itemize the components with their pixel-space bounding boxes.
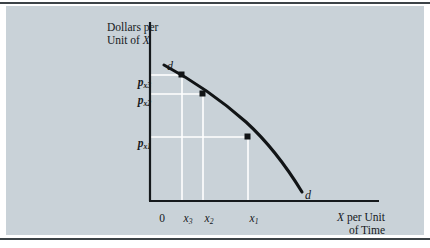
quantity-label-x3-base: x	[184, 212, 189, 224]
x-axis-title-line1-rest: per Unit	[344, 211, 385, 223]
bottom-rule	[0, 238, 430, 240]
quantity-label-x2-subscript: 2	[210, 217, 214, 226]
y-axis-title-line2-prefix: Unit of	[107, 34, 143, 46]
price-label-x3: px3	[117, 76, 151, 89]
curve-label-bottom: d	[305, 189, 311, 202]
demand-curve	[164, 65, 302, 192]
top-rule	[0, 2, 430, 4]
figure-root: Dollars perUnit of X X per Unitof Time p…	[0, 0, 430, 248]
quantity-label-x3: x3	[177, 212, 199, 225]
quantity-label-x2-base: x	[205, 212, 210, 224]
quantity-label-x2: x2	[198, 212, 220, 225]
y-axis-title-line1: Dollars per	[107, 21, 158, 33]
quantity-label-x1-base: x	[250, 212, 255, 224]
x-axis-title-line2: of Time	[349, 224, 385, 236]
y-axis-title-variable: X	[143, 34, 150, 46]
origin-label: 0	[151, 212, 173, 225]
quantity-label-x1-subscript: 1	[255, 217, 259, 226]
axis-lines	[149, 22, 379, 201]
demand-curve-plot	[6, 6, 424, 235]
price-label-x3-subscript: x3	[143, 81, 151, 90]
curve-label-top: d	[167, 60, 173, 73]
price-label-x1-subscript: x1	[143, 142, 151, 151]
x-axis-title: X per Unitof Time	[289, 211, 385, 237]
figure-panel: Dollars perUnit of X X per Unitof Time p…	[6, 6, 424, 235]
price-label-x2-subscript: x2	[143, 99, 151, 108]
quantity-label-x3-subscript: 3	[189, 217, 193, 226]
y-axis-title: Dollars perUnit of X	[107, 21, 158, 47]
point-marker-x1	[245, 134, 251, 140]
guide-lines	[150, 75, 248, 200]
price-label-x1: px1	[117, 137, 151, 150]
curve-point-markers	[179, 72, 251, 140]
price-label-x2: px2	[117, 94, 151, 107]
point-marker-x2	[200, 91, 206, 97]
quantity-label-x1: x1	[243, 212, 265, 225]
point-marker-x3	[179, 72, 185, 78]
